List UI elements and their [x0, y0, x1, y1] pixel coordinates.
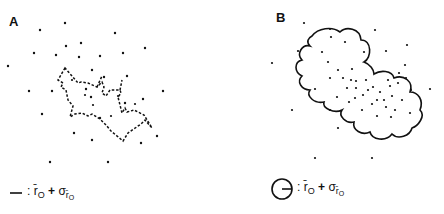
- data-point: [336, 96, 338, 98]
- data-point: [64, 22, 66, 24]
- data-point: [142, 98, 144, 100]
- data-point: [374, 29, 376, 31]
- data-point: [401, 99, 403, 101]
- cluster-outline-b: [296, 29, 422, 140]
- data-point: [73, 132, 75, 134]
- data-point: [103, 76, 105, 78]
- data-point: [107, 161, 109, 163]
- data-point: [291, 109, 293, 111]
- legend-sigma: σ: [328, 180, 335, 194]
- data-point: [361, 109, 363, 111]
- data-point: [355, 87, 357, 89]
- data-point: [110, 115, 112, 117]
- data-point: [389, 85, 391, 87]
- legend-sep: :: [27, 184, 30, 198]
- data-point: [391, 95, 393, 97]
- data-point: [55, 54, 57, 56]
- data-point: [7, 65, 9, 67]
- data-point: [41, 113, 43, 115]
- data-point: [376, 99, 378, 101]
- data-point: [350, 79, 352, 81]
- data-point: [65, 45, 67, 47]
- data-point: [124, 102, 126, 104]
- data-point: [90, 96, 92, 98]
- scatter-points-a: [7, 22, 164, 163]
- data-point: [344, 41, 346, 43]
- data-point: [78, 56, 80, 58]
- legend-sigma: σ: [58, 184, 65, 198]
- data-point: [303, 22, 305, 24]
- data-point: [404, 64, 406, 66]
- data-point: [394, 109, 396, 111]
- data-point: [297, 50, 299, 52]
- data-point: [371, 103, 373, 105]
- data-point: [337, 127, 339, 129]
- data-point: [342, 77, 344, 79]
- data-point: [71, 79, 73, 81]
- legend-sigma-subsub: O: [339, 190, 344, 197]
- data-point: [114, 32, 116, 34]
- data-point: [362, 94, 364, 96]
- legend-plus: +: [318, 180, 325, 194]
- diagram-canvas: [0, 0, 444, 214]
- legend-r-sub: O: [308, 186, 315, 196]
- data-point: [376, 115, 378, 117]
- data-point: [33, 52, 35, 54]
- legend-b: : r̄ O + σ r̄ O: [297, 180, 344, 194]
- legend-plus: +: [48, 184, 55, 198]
- data-point: [99, 55, 101, 57]
- data-point: [144, 47, 146, 49]
- data-point: [330, 36, 332, 38]
- legend-sigma-subsub: O: [69, 194, 74, 201]
- data-point: [84, 94, 86, 96]
- data-point: [337, 69, 339, 71]
- data-point: [156, 135, 158, 137]
- data-point: [39, 29, 41, 31]
- data-point: [85, 88, 87, 90]
- legend-r-sub: O: [38, 190, 45, 200]
- data-point: [92, 104, 94, 106]
- data-point: [314, 157, 316, 159]
- data-point: [390, 116, 392, 118]
- data-point: [28, 90, 30, 92]
- data-point: [409, 112, 411, 114]
- data-point: [429, 88, 431, 90]
- data-point: [365, 79, 367, 81]
- legend-a: : r̄ O + σ r̄ O: [27, 184, 74, 198]
- data-point: [80, 42, 82, 44]
- data-point: [91, 139, 93, 141]
- data-point: [371, 157, 373, 159]
- data-point: [329, 77, 331, 79]
- data-point: [363, 51, 365, 53]
- data-point: [126, 75, 128, 77]
- data-point: [271, 62, 273, 64]
- data-point: [348, 101, 350, 103]
- cluster-points-a: [71, 79, 136, 117]
- data-point: [398, 72, 400, 74]
- cluster-branch-a2: [120, 80, 122, 90]
- data-point: [351, 68, 353, 70]
- data-point: [122, 52, 124, 54]
- data-point: [379, 91, 381, 93]
- data-point: [367, 89, 369, 91]
- scatter-points-b: [271, 22, 431, 159]
- data-point: [162, 90, 164, 92]
- data-point: [51, 90, 53, 92]
- legend-sep: :: [297, 180, 300, 194]
- data-point: [327, 61, 329, 63]
- data-point: [321, 51, 323, 53]
- data-point: [314, 88, 316, 90]
- data-point: [91, 69, 93, 71]
- data-point: [372, 86, 374, 88]
- data-point: [140, 142, 142, 144]
- data-point: [354, 97, 356, 99]
- data-point: [355, 80, 357, 82]
- data-point: [383, 99, 385, 101]
- data-point: [397, 82, 399, 84]
- data-point: [387, 79, 389, 81]
- data-point: [49, 161, 51, 163]
- data-point: [406, 44, 408, 46]
- data-point: [385, 106, 387, 108]
- data-point: [385, 50, 387, 52]
- data-point: [134, 103, 136, 105]
